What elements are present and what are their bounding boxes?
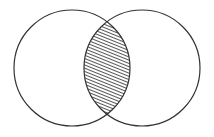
venn-diagram — [0, 0, 214, 137]
